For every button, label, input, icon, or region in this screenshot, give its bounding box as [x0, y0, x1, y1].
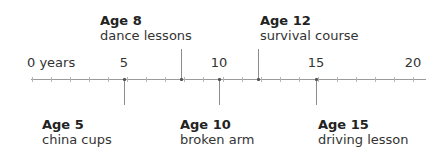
- axis-tick: [108, 77, 109, 82]
- connector-age-15: [316, 80, 317, 105]
- connector-age-10: [219, 80, 220, 105]
- timeline-axis: [31, 79, 426, 80]
- event-description: china cups: [42, 132, 112, 147]
- axis-tick: [51, 77, 52, 82]
- connector-age-5: [124, 80, 125, 105]
- axis-tick: [318, 77, 319, 82]
- event-description: dance lessons: [100, 28, 192, 43]
- axis-tick: [280, 77, 281, 82]
- marker-age-8: [180, 78, 183, 81]
- axis-tick: [184, 77, 185, 82]
- event-title: Age 12: [260, 13, 359, 28]
- event-age-12: Age 12 survival course: [260, 13, 359, 43]
- axis-tick: [223, 77, 224, 82]
- axis-tick: [89, 77, 90, 82]
- event-age-15: Age 15 driving lesson: [318, 117, 409, 147]
- axis-tick: [146, 77, 147, 82]
- axis-tick: [242, 77, 243, 82]
- event-description: broken arm: [180, 132, 254, 147]
- marker-age-5: [123, 78, 126, 81]
- axis-tick: [356, 77, 357, 82]
- tick-label-5: 5: [120, 55, 128, 70]
- event-age-5: Age 5 china cups: [42, 117, 112, 147]
- event-title: Age 8: [100, 13, 192, 28]
- axis-tick: [32, 77, 33, 82]
- axis-tick: [394, 77, 395, 82]
- event-title: Age 15: [318, 117, 409, 132]
- event-title: Age 5: [42, 117, 112, 132]
- connector-age-8: [181, 49, 182, 80]
- event-age-10: Age 10 broken arm: [180, 117, 254, 147]
- axis-tick: [337, 77, 338, 82]
- event-description: survival course: [260, 28, 359, 43]
- axis-tick: [413, 77, 414, 82]
- tick-label-20: 20: [405, 55, 422, 70]
- connector-age-12: [258, 49, 259, 80]
- marker-age-10: [218, 78, 221, 81]
- tick-label-10: 10: [211, 55, 228, 70]
- axis-tick: [299, 77, 300, 82]
- marker-age-15: [315, 78, 318, 81]
- axis-tick: [127, 77, 128, 82]
- event-age-8: Age 8 dance lessons: [100, 13, 192, 43]
- tick-label-0: 0 years: [27, 55, 75, 70]
- axis-tick: [261, 77, 262, 82]
- axis-tick: [203, 77, 204, 82]
- axis-tick: [165, 77, 166, 82]
- event-title: Age 10: [180, 117, 254, 132]
- axis-tick: [375, 77, 376, 82]
- marker-age-12: [257, 78, 260, 81]
- event-description: driving lesson: [318, 132, 409, 147]
- tick-label-15: 15: [308, 55, 325, 70]
- axis-tick: [70, 77, 71, 82]
